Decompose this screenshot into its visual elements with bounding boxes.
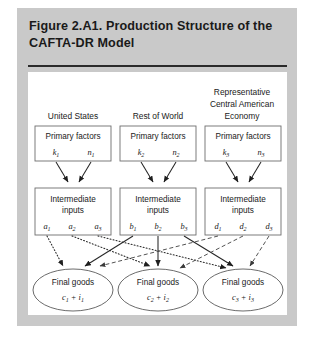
title-divider xyxy=(28,65,287,67)
intermediate-inputs-row: Intermediate inputs a1 a2 a3 Intermediat… xyxy=(35,188,281,235)
edge-d3-to-final-goods-3 xyxy=(250,236,269,266)
diagram-content-area: United States Rest of World Representati… xyxy=(28,72,287,315)
final-goods-ellipse-us xyxy=(33,269,113,311)
intermediate-inputs-label-cafta-line2: inputs xyxy=(232,206,254,215)
intermediate-inputs-label-row-line1: Intermediate xyxy=(135,195,181,204)
figure-title: Figure 2.A1. Production Structure of the… xyxy=(29,18,287,51)
primary-factors-label-cafta: Primary factors xyxy=(215,132,270,141)
column-header-cafta-line3: Economy xyxy=(225,111,261,121)
final-goods-row: Final goods c1 + i1 Final goods c2 + i2 … xyxy=(33,269,283,311)
production-structure-diagram: United States Rest of World Representati… xyxy=(28,72,287,315)
column-header-cafta-line2: Central American xyxy=(210,99,275,109)
edge-k2-to-intermediate xyxy=(141,162,153,182)
column-header-united-states: United States xyxy=(48,111,98,121)
intermediate-inputs-label-us-line2: inputs xyxy=(62,206,84,215)
column-headers: United States Rest of World Representati… xyxy=(48,87,275,121)
edge-d2-to-final-goods-2 xyxy=(180,236,243,268)
primary-factors-row: Primary factors k1 n1 Primary factors k2… xyxy=(35,126,281,161)
column-header-cafta-line1: Representative xyxy=(214,87,271,97)
final-goods-ellipse-row xyxy=(118,269,198,311)
edge-n1-to-intermediate xyxy=(79,162,91,182)
edge-a2-to-final-goods-2 xyxy=(72,236,150,266)
edge-k3-to-intermediate xyxy=(226,162,238,182)
column-header-rest-of-world: Rest of World xyxy=(133,111,184,121)
intermediate-inputs-label-cafta-line1: Intermediate xyxy=(220,195,266,204)
primary-factors-label-row: Primary factors xyxy=(130,132,185,141)
edges-from-us-intermediate xyxy=(47,236,226,268)
final-goods-label-cafta: Final goods xyxy=(222,278,264,287)
final-goods-label-row: Final goods xyxy=(137,278,179,287)
final-goods-expr-cafta: c3 + i3 xyxy=(232,293,254,303)
final-goods-expr-us: c1 + i1 xyxy=(62,293,84,303)
edge-k1-to-intermediate xyxy=(56,162,68,182)
edge-n3-to-intermediate xyxy=(249,162,261,182)
intermediate-inputs-label-us-line1: Intermediate xyxy=(50,195,96,204)
edge-a1-to-final-goods-1 xyxy=(47,236,63,266)
primary-factors-label-us: Primary factors xyxy=(45,132,100,141)
edge-n2-to-intermediate xyxy=(164,162,176,182)
final-goods-expr-row: c2 + i2 xyxy=(147,293,169,303)
primary-to-intermediate-edges xyxy=(56,162,261,182)
edge-b3-to-final-goods-3 xyxy=(184,236,233,266)
figure-panel: Figure 2.A1. Production Structure of the… xyxy=(17,8,297,326)
edge-b1-to-final-goods-1 xyxy=(85,236,133,266)
edge-a3-to-final-goods-3 xyxy=(98,236,226,268)
final-goods-label-us: Final goods xyxy=(52,278,94,287)
final-goods-ellipse-cafta xyxy=(203,269,283,311)
intermediate-inputs-label-row-line2: inputs xyxy=(147,206,169,215)
